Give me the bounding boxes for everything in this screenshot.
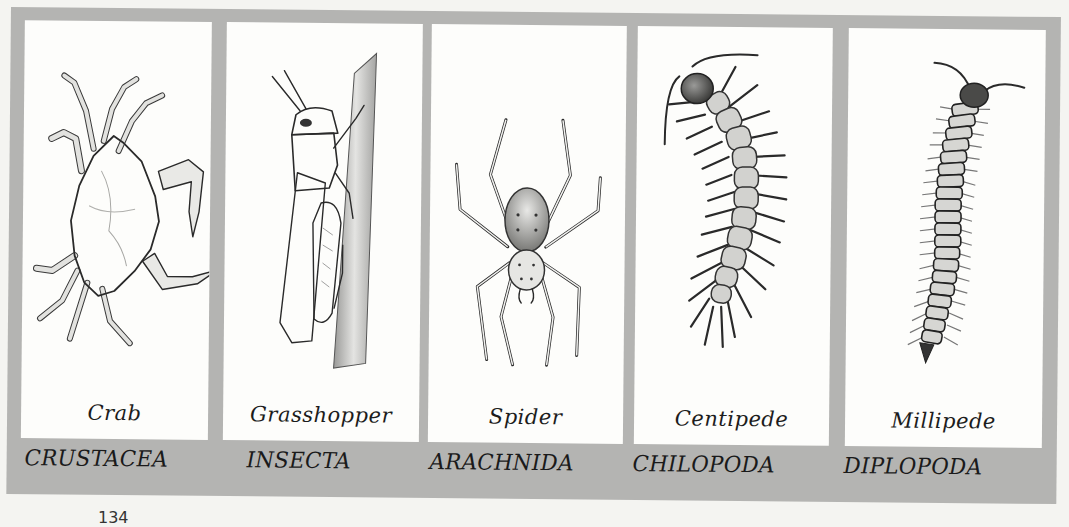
- class-name-label: CHILOPODA: [633, 451, 775, 477]
- class-name-label: ARACHNIDA: [430, 449, 574, 475]
- page-number: 134: [98, 508, 129, 527]
- millipede-illustration: [845, 28, 1045, 390]
- common-name-label: Crab: [21, 400, 208, 426]
- class-name-label: INSECTA: [247, 447, 351, 473]
- panel-millipede: Millipede: [845, 28, 1046, 448]
- figure-frame: Crab: [6, 7, 1061, 504]
- common-name-label: Millipede: [845, 408, 1042, 434]
- class-name-label: CRUSTACEA: [25, 445, 169, 471]
- centipede-illustration: [634, 26, 832, 388]
- panel-crab: Crab: [21, 20, 212, 440]
- panel-centipede: Centipede: [634, 26, 833, 446]
- common-name-label: Grasshopper: [223, 402, 419, 428]
- spider-illustration: [428, 24, 626, 386]
- panel-grasshopper: Grasshopper: [223, 22, 423, 442]
- panel-spider: Spider: [428, 24, 627, 444]
- class-name-label: DIPLOPODA: [844, 453, 983, 479]
- crab-illustration: [21, 20, 211, 382]
- common-name-label: Centipede: [634, 406, 829, 432]
- grasshopper-illustration: [223, 22, 422, 384]
- common-name-label: Spider: [428, 404, 623, 430]
